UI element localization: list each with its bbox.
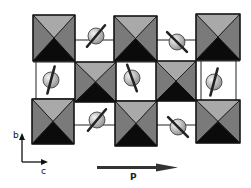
atom-with-dipole (168, 117, 188, 137)
atom-with-dipole (206, 68, 222, 95)
axis-b-arrowhead-icon (19, 133, 25, 140)
octahedron (32, 99, 74, 144)
octahedron (156, 61, 196, 101)
axis-c-label: c (41, 166, 46, 176)
atom-with-dipole (87, 25, 105, 46)
axis-b-label: b (13, 130, 19, 140)
octahedron (196, 14, 240, 60)
atom-with-dipole (124, 65, 140, 91)
polarization-label: P (130, 172, 137, 182)
axis-c-arrowhead-icon (41, 159, 48, 165)
octahedron (75, 62, 116, 102)
octahedron (33, 15, 75, 61)
polarization-arrow: P (97, 164, 178, 183)
octahedron (115, 101, 157, 146)
crystal-structure-diagram: b c P (0, 0, 251, 188)
atom-with-dipole (43, 66, 59, 93)
atom-with-dipole (167, 32, 187, 52)
octahedron (114, 16, 157, 61)
octahedron (196, 100, 240, 143)
polarization-arrowhead-icon (156, 164, 178, 172)
atom-with-dipole (88, 109, 106, 130)
